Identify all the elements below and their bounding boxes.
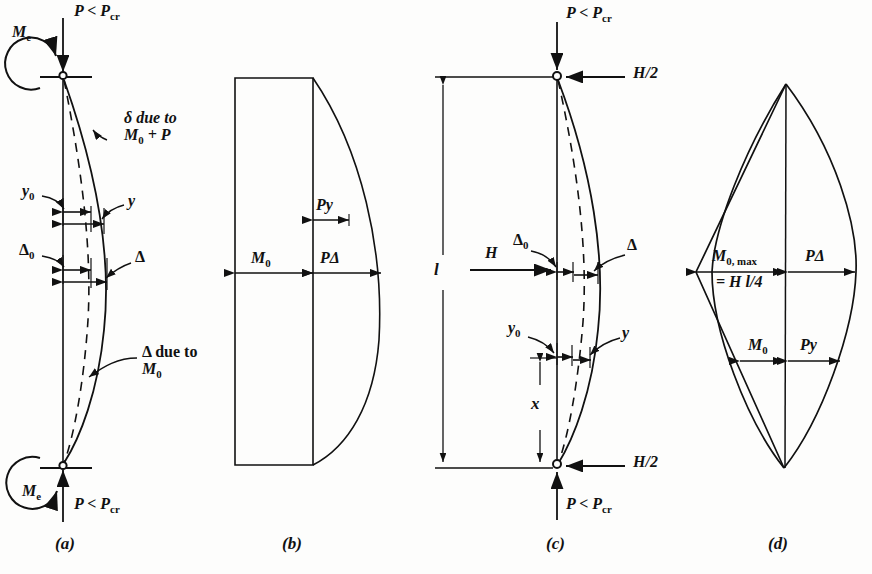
panel-b-py-label: Py	[316, 197, 333, 214]
panel-c-y-label: y	[622, 325, 629, 342]
panel-d-m0max-expression: = H l/4	[716, 274, 762, 291]
panel-c-station-label: x	[531, 395, 540, 413]
figure-canvas: P < Pcr Me δ due to M0 + P y0 y Δ0 Δ Δ d…	[0, 0, 872, 574]
panel-a-linework	[5, 18, 137, 522]
panel-a-delta-note: δ due to M0 + P	[124, 110, 177, 146]
panel-b-caption: (b)	[282, 535, 302, 553]
panel-c-delta0-label: Δ0	[513, 232, 528, 252]
panel-c-axial-load-top-label: P < Pcr	[566, 5, 612, 25]
panel-a-caption: (a)	[55, 535, 75, 553]
panel-c-linework	[435, 22, 625, 520]
panel-a-y-label: y	[128, 193, 135, 210]
panel-c-shear-bottom-label: H/2	[633, 454, 658, 471]
panel-c-lateral-load-label: H	[485, 245, 497, 262]
panel-b-pdelta-label: PΔ	[320, 250, 340, 267]
panel-c-axial-load-bottom-label: P < Pcr	[566, 496, 612, 516]
panel-c-delta-label: Δ	[627, 237, 637, 254]
panel-a-axial-load-top-label: P < Pcr	[74, 3, 120, 23]
panel-c-y0-label: y0	[508, 320, 521, 340]
panel-a-y0-label: y0	[22, 183, 35, 203]
panel-a-axial-load-bottom-label: P < Pcr	[74, 496, 120, 516]
panel-b-linework	[235, 78, 381, 465]
panel-a-delta-label: Δ	[135, 249, 145, 266]
panel-a-end-moment-bottom-label: Me	[22, 483, 41, 503]
panel-d-m0max-label: M0, max	[712, 248, 757, 268]
panel-c-length-label: l	[434, 261, 439, 279]
panel-d-py-label: Py	[800, 337, 817, 354]
panel-c-shear-top-label: H/2	[633, 65, 658, 82]
panel-c-caption: (c)	[546, 535, 565, 553]
panel-a-end-moment-top-label: Me	[12, 24, 31, 44]
panel-d-m0-label: M0	[748, 337, 768, 357]
panel-a-big-delta-note: Δ due to M0	[142, 344, 197, 380]
panel-b-m0-label: M0	[251, 250, 271, 270]
panel-d-pdelta-label: PΔ	[805, 248, 825, 265]
panel-d-caption: (d)	[768, 535, 788, 553]
panel-a-delta0-label: Δ0	[19, 242, 34, 262]
